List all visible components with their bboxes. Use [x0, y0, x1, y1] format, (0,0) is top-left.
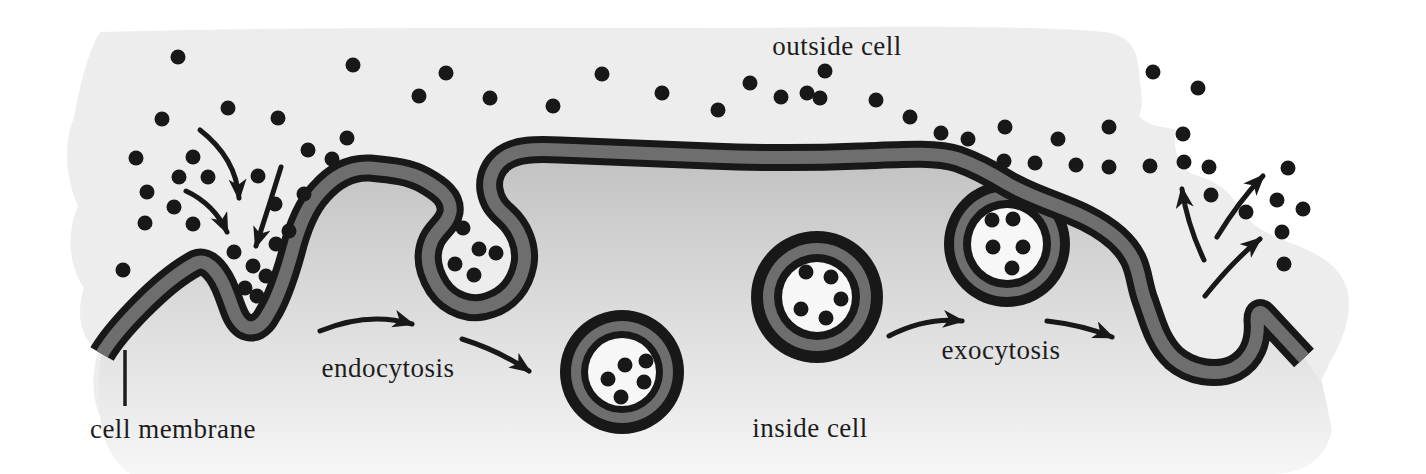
particle-dot: [743, 76, 758, 91]
fused-vesicle-particle-dot: [1006, 212, 1021, 227]
particle-dot: [869, 93, 884, 108]
particle-dot: [774, 90, 789, 105]
particle-dot: [997, 154, 1012, 169]
particle-dot: [140, 185, 155, 200]
particle-dot: [167, 200, 182, 215]
particle-dot: [325, 152, 340, 167]
pit-particle-dot: [456, 221, 471, 236]
pit-particle-dot: [472, 242, 487, 257]
particle-dot: [1102, 120, 1117, 135]
particle-dot: [546, 99, 561, 114]
particle-dot: [800, 86, 815, 101]
fused-vesicle-particle-dot: [1016, 240, 1031, 255]
endocytic-vesicle-particle-dot: [601, 372, 616, 387]
particle-dot: [271, 111, 286, 126]
particle-dot: [301, 143, 316, 158]
particle-dot: [251, 169, 266, 184]
particle-dot: [201, 170, 216, 185]
particle-dot: [1102, 160, 1117, 175]
label-exocytosis: exocytosis: [942, 335, 1061, 365]
figure-canvas: outside cell inside cell cell membrane e…: [0, 0, 1426, 474]
exocytic-vesicle-particle-dot: [834, 292, 849, 307]
label-outside-cell: outside cell: [772, 31, 902, 61]
exocytic-vesicle-particle-dot: [824, 270, 839, 285]
particle-dot: [483, 91, 498, 106]
pit-particle-dot: [467, 268, 482, 283]
particle-dot: [171, 50, 186, 65]
diagram-svg: outside cell inside cell cell membrane e…: [0, 0, 1426, 474]
endocytic-vesicle-particle-dot: [614, 390, 629, 405]
fused-vesicle-particle-dot: [1005, 261, 1020, 276]
particle-dot: [1191, 81, 1206, 96]
particle-dot: [1239, 205, 1254, 220]
pit-particle-dot: [246, 259, 261, 274]
pit-particle-dot: [259, 269, 274, 284]
particle-dot: [1275, 225, 1290, 240]
particle-dot: [116, 263, 131, 278]
pit-particle-dot: [227, 245, 242, 260]
particle-dot: [155, 112, 170, 127]
particle-dot: [172, 170, 187, 185]
particle-dot: [269, 237, 284, 252]
pit-particle-dot: [250, 289, 265, 304]
particle-dot: [1176, 127, 1191, 142]
particle-dot: [1270, 193, 1285, 208]
particle-dot: [1204, 188, 1219, 203]
particle-dot: [998, 120, 1013, 135]
particle-dot: [439, 66, 454, 81]
pit-particle-dot: [489, 246, 504, 261]
particle-dot: [1296, 202, 1311, 217]
particle-dot: [1202, 160, 1217, 175]
particle-dot: [129, 151, 144, 166]
particle-dot: [186, 150, 201, 165]
particle-dot: [340, 131, 355, 146]
particle-dot: [655, 86, 670, 101]
particle-dot: [961, 132, 976, 147]
particle-dot: [711, 103, 726, 118]
diagram-shapes: [67, 27, 1349, 474]
particle-dot: [1277, 257, 1292, 272]
particle-dot: [412, 89, 427, 104]
particle-dot: [282, 224, 297, 239]
endocytic-vesicle-particle-dot: [618, 358, 633, 373]
particle-dot: [186, 217, 201, 232]
particle-dot: [1143, 159, 1158, 174]
fused-vesicle-particle-dot: [986, 240, 1001, 255]
particle-dot: [138, 216, 153, 231]
pit-particle-dot: [448, 257, 463, 272]
particle-dot: [346, 58, 361, 73]
particle-dot: [813, 91, 828, 106]
exocytic-vesicle-particle-dot: [794, 302, 809, 317]
label-endocytosis: endocytosis: [322, 353, 455, 383]
endocytic-vesicle-particle-dot: [639, 354, 654, 369]
particle-dot: [818, 64, 833, 79]
particle-dot: [221, 101, 236, 116]
particle-dot: [1146, 65, 1161, 80]
particle-dot: [1069, 158, 1084, 173]
particle-dot: [1051, 132, 1066, 147]
label-cell-membrane: cell membrane: [90, 414, 256, 444]
particle-dot: [1028, 156, 1043, 171]
particle-dot: [1281, 161, 1296, 176]
particle-dot: [903, 110, 918, 125]
particle-dot: [1177, 155, 1192, 170]
particle-dot: [595, 67, 610, 82]
fused-vesicle-particle-dot: [985, 213, 1000, 228]
label-inside-cell: inside cell: [752, 413, 868, 443]
exocytic-vesicle-particle-dot: [819, 311, 834, 326]
exocytic-vesicle-particle-dot: [799, 265, 814, 280]
particle-dot: [297, 187, 312, 202]
particle-dot: [934, 126, 949, 141]
endocytic-vesicle-particle-dot: [637, 375, 652, 390]
